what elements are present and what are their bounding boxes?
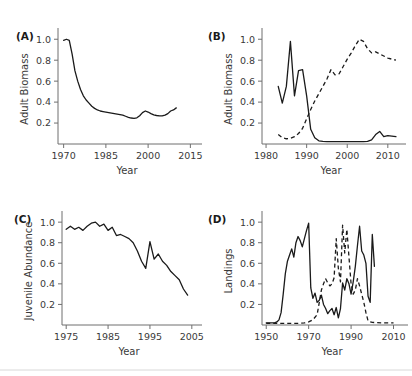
x-tick-label: 2000 <box>335 150 359 161</box>
series-line-a-1 <box>64 39 177 118</box>
x-tick-label: 1985 <box>94 150 118 161</box>
y-axis-title: Adult Biomass <box>19 53 30 124</box>
y-tick-label: 0.6 <box>40 258 55 269</box>
y-tick-label: 1.0 <box>40 217 55 228</box>
chart-panel-b: (B)0.20.40.60.81.01980199020002010YearAd… <box>200 0 412 188</box>
y-tick-label: 0.4 <box>40 278 55 289</box>
panel-letter-a: (A) <box>16 30 34 42</box>
x-tick-label: 2010 <box>376 150 400 161</box>
x-tick-label: 1975 <box>54 331 78 342</box>
y-tick-label: 0.4 <box>36 96 51 107</box>
y-tick-label: 0.4 <box>240 96 255 107</box>
panel-letter-d: (D) <box>208 213 226 225</box>
y-axis-title: Landings <box>223 248 234 293</box>
y-tick-label: 0.8 <box>240 237 255 248</box>
series-line-c-1 <box>66 222 187 295</box>
y-tick-label: 0.6 <box>36 76 51 87</box>
x-axis-title: Year <box>115 165 138 176</box>
y-tick-label: 0.8 <box>240 55 255 66</box>
panel-letter-b: (B) <box>208 30 226 42</box>
x-tick-label: 2015 <box>178 150 202 161</box>
y-tick-label: 0.6 <box>240 76 255 87</box>
y-tick-label: 0.2 <box>36 117 51 128</box>
x-axis-title: Year <box>319 165 342 176</box>
x-axis-title: Year <box>117 346 140 357</box>
x-tick-label: 1970 <box>297 331 321 342</box>
series-line-d-1 <box>266 223 374 323</box>
y-tick-label: 1.0 <box>240 217 255 228</box>
chart-svg-a: (A)0.20.40.60.81.01970198520002015YearAd… <box>0 0 206 188</box>
x-tick-label: 1950 <box>254 331 278 342</box>
chart-svg-d: (D)0.20.40.60.81.01950197019902010YearLa… <box>200 185 412 376</box>
y-tick-label: 1.0 <box>36 34 51 45</box>
figure-container: (A)0.20.40.60.81.01970198520002015YearAd… <box>0 0 412 376</box>
x-tick-label: 2010 <box>381 331 405 342</box>
x-tick-label: 2000 <box>136 150 160 161</box>
x-tick-label: 1990 <box>295 150 319 161</box>
y-tick-label: 0.2 <box>40 299 55 310</box>
y-axis-title: Adult Biomass <box>223 53 234 124</box>
y-tick-label: 0.8 <box>36 55 51 66</box>
chart-panel-d: (D)0.20.40.60.81.01950197019902010YearLa… <box>200 185 412 376</box>
y-tick-label: 1.0 <box>240 34 255 45</box>
y-tick-label: 0.4 <box>240 278 255 289</box>
bottom-divider <box>0 368 412 372</box>
chart-panel-c: (C)0.20.40.60.81.01975198519952005YearJu… <box>0 185 206 376</box>
x-tick-label: 1980 <box>254 150 278 161</box>
y-tick-label: 0.8 <box>40 237 55 248</box>
chart-panel-a: (A)0.20.40.60.81.01970198520002015YearAd… <box>0 0 206 188</box>
x-tick-label: 1985 <box>96 331 120 342</box>
y-axis-title: Juvenile Abundance <box>23 222 34 322</box>
x-axis-title: Year <box>320 346 343 357</box>
x-tick-label: 1995 <box>138 331 162 342</box>
chart-svg-c: (C)0.20.40.60.81.01975198519952005YearJu… <box>0 185 206 376</box>
series-line-b-1 <box>278 41 396 141</box>
x-tick-label: 1990 <box>339 331 363 342</box>
y-tick-label: 0.2 <box>240 117 255 128</box>
chart-svg-b: (B)0.20.40.60.81.01980199020002010YearAd… <box>200 0 412 188</box>
y-tick-label: 0.2 <box>240 299 255 310</box>
y-tick-label: 0.6 <box>240 258 255 269</box>
x-tick-label: 1970 <box>52 150 76 161</box>
